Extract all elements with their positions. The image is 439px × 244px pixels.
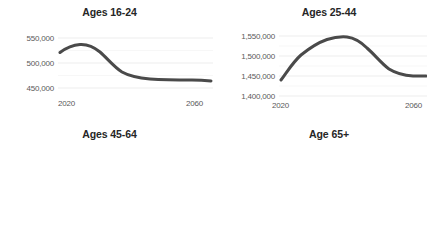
- panel-title: Age 65+: [219, 128, 439, 140]
- chart-panel-ages-16-24: Ages 16-24 550,000 500,000 450,000 2020 …: [0, 0, 219, 122]
- y-axis-labels: 1,550,000 1,500,000 1,450,000 1,400,000: [219, 30, 275, 98]
- y-tick-label: 1,450,000: [241, 72, 275, 81]
- chart-panel-age-65-plus: Age 65+ 300,000 250,000 200,000 2020 206…: [219, 122, 439, 244]
- y-tick-label: 550,000: [26, 34, 54, 43]
- y-tick-label: 500,000: [26, 59, 54, 68]
- panel-title: Ages 25-44: [219, 6, 439, 18]
- chart-panel-ages-45-64: Ages 45-64 1,400,000 1,350,000 1,300,000…: [0, 122, 219, 244]
- panel-title: Ages 16-24: [0, 6, 219, 18]
- y-tick-label: 1,400,000: [241, 92, 275, 101]
- small-multiples-grid: Ages 16-24 550,000 500,000 450,000 2020 …: [0, 0, 439, 244]
- y-axis-labels: 550,000 500,000 450,000: [0, 30, 54, 96]
- x-tick-label-end: 2060: [186, 99, 203, 108]
- x-tick-label-start: 2020: [58, 99, 75, 108]
- plot-area: [279, 30, 427, 98]
- panel-title: Ages 45-64: [0, 128, 219, 140]
- chart-panel-ages-25-44: Ages 25-44 1,550,000 1,500,000 1,450,000…: [219, 0, 439, 122]
- y-tick-label: 1,500,000: [241, 52, 275, 61]
- y-tick-label: 450,000: [26, 84, 54, 93]
- x-tick-label-start: 2020: [272, 101, 289, 110]
- y-tick-label: 1,550,000: [241, 32, 275, 41]
- x-tick-label-end: 2060: [405, 101, 422, 110]
- plot-area: [58, 30, 213, 96]
